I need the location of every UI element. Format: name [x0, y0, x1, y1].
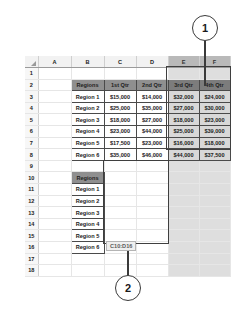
cell-f18[interactable] — [199, 265, 230, 277]
cell-c13[interactable] — [104, 207, 136, 219]
cell-d18[interactable] — [136, 265, 168, 277]
cell-d9[interactable] — [136, 160, 168, 172]
cell-a4[interactable] — [38, 102, 71, 114]
upper-row-q3[interactable]: $44,000 — [168, 149, 199, 161]
cell-f15[interactable] — [199, 230, 230, 242]
table-row[interactable]: 12 Region 2 — [25, 195, 230, 207]
cell-a8[interactable] — [38, 149, 71, 161]
table-row[interactable]: 8 Region 6 $35,000 $46,000 $44,000 $37,5… — [25, 149, 230, 161]
upper-header-q1[interactable]: 1st Qtr — [104, 79, 136, 91]
row-header-6[interactable]: 6 — [25, 126, 38, 138]
upper-row-label[interactable]: Region 3 — [71, 114, 104, 126]
upper-header-q2[interactable]: 2nd Qtr — [136, 79, 168, 91]
cell-e9[interactable] — [168, 160, 199, 172]
select-all-corner[interactable] — [25, 56, 38, 68]
cell-e17[interactable] — [168, 253, 199, 265]
table-row[interactable]: 5 Region 3 $18,000 $27,000 $18,000 $23,0… — [25, 114, 230, 126]
cell-d14[interactable] — [136, 218, 168, 230]
lower-row-label[interactable]: Region 5 — [71, 230, 104, 242]
cell-e16[interactable] — [168, 242, 199, 254]
table-row[interactable]: 1 — [25, 68, 230, 80]
cell-c15[interactable] — [104, 230, 136, 242]
upper-row-q3[interactable]: $32,000 — [168, 91, 199, 103]
upper-row-q4[interactable]: $24,000 — [199, 91, 230, 103]
upper-row-q2[interactable]: $23,000 — [136, 137, 168, 149]
cell-f14[interactable] — [199, 218, 230, 230]
column-header-b[interactable]: B — [71, 56, 104, 68]
table-row[interactable]: 14 Region 4 — [25, 218, 230, 230]
cell-e1[interactable] — [168, 68, 199, 80]
column-header-row[interactable]: A B C D E F — [25, 56, 230, 68]
cell-e13[interactable] — [168, 207, 199, 219]
cell-c9[interactable] — [104, 160, 136, 172]
upper-row-q1[interactable]: $17,500 — [104, 137, 136, 149]
cell-a15[interactable] — [38, 230, 71, 242]
row-header-9[interactable]: 9 — [25, 160, 38, 172]
table-row[interactable]: 9 — [25, 160, 230, 172]
lower-row-label[interactable]: Region 1 — [71, 184, 104, 196]
table-row[interactable]: 10 Regions — [25, 172, 230, 184]
upper-row-q3[interactable]: $25,000 — [168, 126, 199, 138]
row-header-5[interactable]: 5 — [25, 114, 38, 126]
cell-a5[interactable] — [38, 114, 71, 126]
cell-a11[interactable] — [38, 184, 71, 196]
row-header-4[interactable]: 4 — [25, 102, 38, 114]
cell-c10[interactable] — [104, 172, 136, 184]
column-header-d[interactable]: D — [136, 56, 168, 68]
cell-a7[interactable] — [38, 137, 71, 149]
row-header-12[interactable]: 12 — [25, 195, 38, 207]
table-row[interactable]: 3 Region 1 $15,000 $14,000 $32,000 $24,0… — [25, 91, 230, 103]
cell-d10[interactable] — [136, 172, 168, 184]
upper-row-label[interactable]: Region 1 — [71, 91, 104, 103]
row-header-1[interactable]: 1 — [25, 68, 38, 80]
upper-row-q1[interactable]: $25,000 — [104, 102, 136, 114]
upper-row-label[interactable]: Region 6 — [71, 149, 104, 161]
cell-e10[interactable] — [168, 172, 199, 184]
cell-e14[interactable] — [168, 218, 199, 230]
cell-b17[interactable] — [71, 253, 104, 265]
upper-row-q2[interactable]: $44,000 — [136, 126, 168, 138]
cell-a16[interactable] — [38, 242, 71, 254]
upper-row-q1[interactable]: $23,000 — [104, 126, 136, 138]
upper-row-q4[interactable]: $37,500 — [199, 149, 230, 161]
lower-row-label[interactable]: Region 6 — [71, 242, 104, 254]
cell-f9[interactable] — [199, 160, 230, 172]
cell-d13[interactable] — [136, 207, 168, 219]
table-row[interactable]: 7 Region 5 $17,500 $23,000 $16,000 $18,0… — [25, 137, 230, 149]
upper-row-q2[interactable]: $27,000 — [136, 114, 168, 126]
row-header-18[interactable]: 18 — [25, 265, 38, 277]
upper-row-q2[interactable]: $35,000 — [136, 102, 168, 114]
row-header-16[interactable]: 16 — [25, 242, 38, 254]
upper-row-q1[interactable]: $18,000 — [104, 114, 136, 126]
row-header-10[interactable]: 10 — [25, 172, 38, 184]
cell-c11[interactable] — [104, 184, 136, 196]
row-header-8[interactable]: 8 — [25, 149, 38, 161]
cell-e15[interactable] — [168, 230, 199, 242]
row-header-15[interactable]: 15 — [25, 230, 38, 242]
cell-a18[interactable] — [38, 265, 71, 277]
upper-row-q4[interactable]: $30,000 — [199, 102, 230, 114]
row-header-3[interactable]: 3 — [25, 91, 38, 103]
cell-a9[interactable] — [38, 160, 71, 172]
upper-row-q4[interactable]: $23,000 — [199, 114, 230, 126]
row-header-13[interactable]: 13 — [25, 207, 38, 219]
cell-b18[interactable] — [71, 265, 104, 277]
cell-d1[interactable] — [136, 68, 168, 80]
cell-f12[interactable] — [199, 195, 230, 207]
lower-row-label[interactable]: Region 4 — [71, 218, 104, 230]
table-row[interactable]: 13 Region 3 — [25, 207, 230, 219]
upper-header-q3[interactable]: 3rd Qtr — [168, 79, 199, 91]
cell-f16[interactable] — [199, 242, 230, 254]
upper-row-label[interactable]: Region 5 — [71, 137, 104, 149]
upper-row-q4[interactable]: $18,000 — [199, 137, 230, 149]
cell-a2[interactable] — [38, 79, 71, 91]
table-row[interactable]: 11 Region 1 — [25, 184, 230, 196]
row-header-7[interactable]: 7 — [25, 137, 38, 149]
cell-d17[interactable] — [136, 253, 168, 265]
upper-row-q3[interactable]: $16,000 — [168, 137, 199, 149]
upper-row-q4[interactable]: $39,000 — [199, 126, 230, 138]
cell-a14[interactable] — [38, 218, 71, 230]
cell-b9[interactable] — [71, 160, 104, 172]
cell-b1[interactable] — [71, 68, 104, 80]
cell-c14[interactable] — [104, 218, 136, 230]
